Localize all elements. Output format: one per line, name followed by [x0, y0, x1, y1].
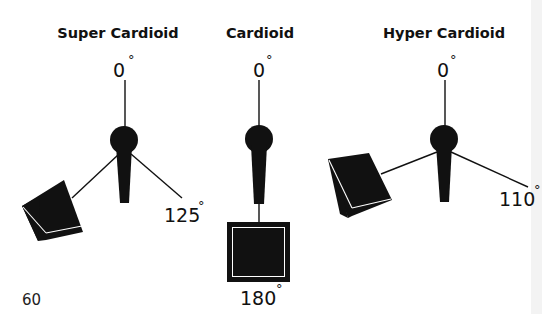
- diagram-page: Super Cardioid 0 ° 125 ° Cardioid 0 °: [0, 0, 542, 314]
- hyper-cardioid-front-label: 0: [437, 59, 449, 81]
- monitor-speaker-icon: [328, 153, 392, 218]
- super-cardioid-right-null-line: [131, 154, 182, 198]
- super-cardioid-rear-label: 125: [164, 204, 200, 226]
- cardioid-rear-label: 180: [240, 287, 276, 309]
- microphone-icon: [110, 126, 138, 203]
- hyper-cardioid-front-degree: °: [450, 52, 457, 67]
- cardioid-front-label: 0: [253, 59, 265, 81]
- super-cardioid-front-label: 0: [113, 59, 125, 81]
- hyper-cardioid-left-null-line: [381, 152, 437, 174]
- mic-pattern-diagram: Super Cardioid 0 ° 125 ° Cardioid 0 °: [0, 0, 542, 314]
- super-cardioid-front-degree: °: [128, 52, 135, 67]
- hyper-cardioid-group: Hyper Cardioid 0 ° 110 °: [328, 25, 541, 218]
- microphone-icon: [245, 125, 273, 204]
- cardioid-rear-degree: °: [276, 281, 283, 296]
- hyper-cardioid-right-null-line: [451, 152, 528, 187]
- monitor-speaker-icon: [227, 222, 290, 282]
- super-cardioid-rear-degree: °: [198, 198, 205, 213]
- cardioid-group: Cardioid 0 ° 180 °: [226, 25, 294, 309]
- monitor-speaker-icon: [22, 180, 83, 241]
- microphone-icon: [430, 125, 458, 202]
- hyper-cardioid-title: Hyper Cardioid: [383, 25, 505, 41]
- page-number: 60: [22, 291, 41, 309]
- hyper-cardioid-rear-label: 110: [499, 188, 535, 210]
- cardioid-front-degree: °: [266, 52, 273, 67]
- cardioid-title: Cardioid: [226, 25, 294, 41]
- super-cardioid-title: Super Cardioid: [57, 25, 178, 41]
- super-cardioid-left-null-line: [72, 154, 119, 198]
- hyper-cardioid-rear-degree: °: [534, 182, 541, 197]
- super-cardioid-group: Super Cardioid 0 ° 125 °: [22, 25, 205, 241]
